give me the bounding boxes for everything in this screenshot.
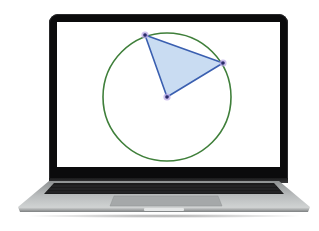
keyboard: [44, 183, 284, 194]
laptop-base: [14, 181, 314, 215]
geometry-figure: [57, 22, 280, 167]
laptop-scene: [0, 0, 319, 231]
laptop-shadow: [22, 214, 306, 218]
vertex-point: [165, 95, 169, 99]
trackpad: [110, 196, 222, 206]
lid-notch: [144, 208, 184, 211]
triangle: [145, 35, 223, 97]
vertex-point: [221, 61, 225, 65]
laptop-screen: [57, 22, 280, 167]
vertex-point: [143, 33, 147, 37]
